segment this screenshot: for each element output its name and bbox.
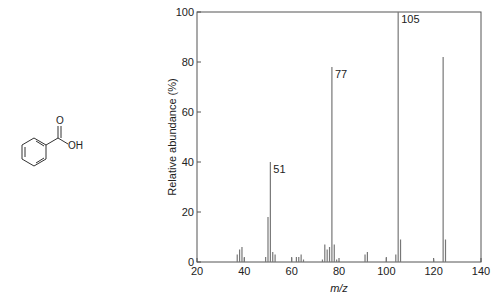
mass-spectrum-chart: 020406080100 20406080100120140 5177105 R… xyxy=(0,0,500,308)
x-tick-label: 140 xyxy=(472,265,490,277)
peak-label: 105 xyxy=(401,13,419,25)
peak-label: 51 xyxy=(273,163,285,175)
y-tick-label: 80 xyxy=(182,56,194,68)
x-axis-title: m/z xyxy=(330,282,348,294)
x-tick-label: 20 xyxy=(191,265,203,277)
y-tick-label: 40 xyxy=(182,156,194,168)
x-tick-label: 40 xyxy=(238,265,250,277)
peak-label: 77 xyxy=(335,68,347,80)
y-axis-title: Relative abundance (%) xyxy=(166,78,178,195)
y-tick-label: 20 xyxy=(182,206,194,218)
plot-frame xyxy=(197,12,481,262)
x-tick-label: 80 xyxy=(333,265,345,277)
x-tick-label: 120 xyxy=(424,265,442,277)
y-tick-label: 100 xyxy=(176,6,194,18)
x-tick-label: 60 xyxy=(286,265,298,277)
spectrum-peaks: 5177105 xyxy=(237,12,445,262)
y-tick-label: 60 xyxy=(182,106,194,118)
x-tick-label: 100 xyxy=(377,265,395,277)
plot-border xyxy=(197,12,481,262)
